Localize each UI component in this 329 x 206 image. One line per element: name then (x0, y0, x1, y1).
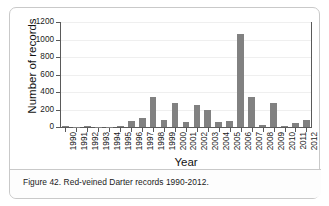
bar (204, 110, 211, 127)
y-tickmark (56, 22, 60, 23)
bar-slot (246, 22, 257, 127)
y-tick-label: 200 (28, 105, 54, 113)
bar (226, 121, 233, 127)
bar (237, 34, 244, 127)
y-tick-label: 1000 (28, 35, 54, 43)
y-tick-label: 0 (28, 123, 54, 131)
bar-slot (180, 22, 191, 127)
bar-slot (71, 22, 82, 127)
bar (183, 122, 190, 127)
bar (62, 126, 69, 127)
bar-slot (268, 22, 279, 127)
bar (194, 105, 201, 127)
chart-plot-area: Number of records 020040060080010001200 … (10, 8, 321, 171)
x-tick-label: 2012 (310, 132, 319, 150)
bar-slot (191, 22, 202, 127)
bar-slot (115, 22, 126, 127)
bar-slot (301, 22, 312, 127)
bar (139, 118, 146, 127)
bar-slot (235, 22, 246, 127)
bar-slot (126, 22, 137, 127)
bar-slot (224, 22, 235, 127)
bar-slot (159, 22, 170, 127)
y-tick-label: 1200 (28, 18, 54, 26)
bar-slot (213, 22, 224, 127)
y-tick-label: 800 (28, 53, 54, 61)
x-axis-title: Year (60, 156, 312, 168)
bar-slot (137, 22, 148, 127)
y-tickmark (56, 57, 60, 58)
bar (248, 97, 255, 127)
y-tick-label: 400 (28, 88, 54, 96)
bar-slot (60, 22, 71, 127)
bar (128, 121, 135, 127)
bar-slot (290, 22, 301, 127)
y-tickmark (56, 40, 60, 41)
bar (215, 122, 222, 127)
bar-slot (279, 22, 290, 127)
bar (259, 125, 266, 127)
bar (84, 126, 91, 127)
figure-card: Number of records 020040060080010001200 … (9, 7, 320, 199)
bar (161, 120, 168, 127)
bar (270, 103, 277, 127)
figure-caption-bar: Figure 42. Red-veined Darter records 199… (10, 169, 321, 198)
bar (281, 126, 288, 127)
bar-slot (257, 22, 268, 127)
y-tick-label: 600 (28, 70, 54, 78)
y-tickmark (56, 92, 60, 93)
bar-slot (170, 22, 181, 127)
bar-slot (104, 22, 115, 127)
bar-slot (93, 22, 104, 127)
figure-caption: Figure 42. Red-veined Darter records 199… (23, 177, 209, 187)
y-tickmark (56, 110, 60, 111)
bar-series (60, 22, 312, 127)
bar (292, 123, 299, 127)
bar-slot (82, 22, 93, 127)
y-tickmark (56, 127, 60, 128)
bar (303, 120, 310, 127)
y-tickmark (56, 75, 60, 76)
bar-slot (148, 22, 159, 127)
bar (117, 126, 124, 127)
bar (150, 97, 157, 127)
bar-slot (202, 22, 213, 127)
bar (172, 103, 179, 128)
y-tick-labels: 020040060080010001200 (28, 8, 54, 171)
